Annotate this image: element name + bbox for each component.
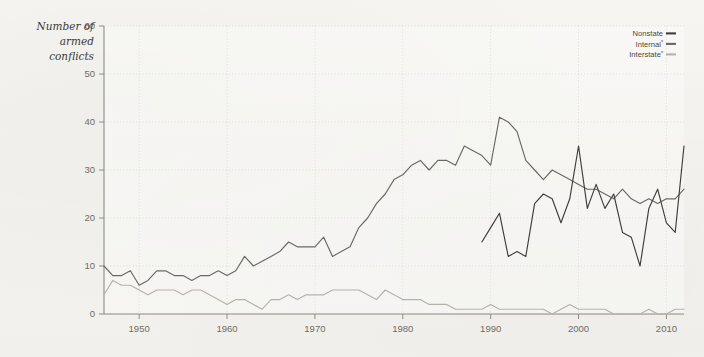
x-tick-label: 1990 [480, 323, 501, 334]
x-tick-label: 1980 [392, 323, 413, 334]
legend-label-internal[interactable]: Internal* [636, 39, 664, 48]
y-tick-label: 40 [84, 116, 95, 127]
x-tick-label: 1970 [304, 323, 325, 334]
x-axis-ticks: 1950196019701980199020002010 [129, 314, 677, 334]
y-axis-ticks: 6050403020100 [84, 20, 104, 319]
x-tick-label: 1950 [129, 323, 150, 334]
legend-label-nonstate[interactable]: Nonstate [633, 29, 663, 38]
y-tick-label: 50 [84, 68, 95, 79]
chart-container: 6050403020100 19501960197019801990200020… [0, 0, 704, 357]
y-axis-title-line2: armed [60, 35, 94, 47]
y-tick-label: 20 [84, 212, 95, 223]
y-axis-title-line1: Number of [36, 20, 97, 32]
x-tick-label: 1960 [216, 323, 237, 334]
x-tick-label: 2000 [568, 323, 589, 334]
y-tick-label: 0 [90, 308, 95, 319]
legend-label-interstate[interactable]: Interstate* [629, 50, 664, 59]
chart-legend: NonstateInternal*Interstate* [629, 29, 676, 59]
armed-conflicts-line-chart: 6050403020100 19501960197019801990200020… [0, 0, 704, 357]
x-tick-label: 2010 [656, 323, 677, 334]
y-tick-label: 30 [84, 164, 95, 175]
y-axis-title-line3: conflicts [49, 50, 94, 62]
y-tick-label: 10 [84, 260, 95, 271]
